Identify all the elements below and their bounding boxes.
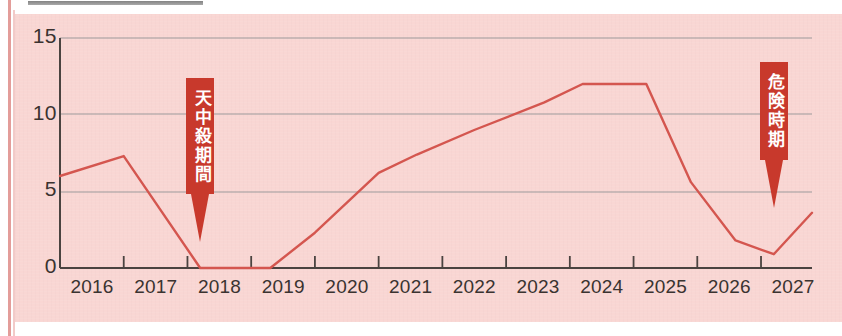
annotation-callout-pointer [191,194,209,242]
x-axis-tick-label: 2019 [251,276,315,298]
x-axis-tick-label: 2027 [761,276,825,298]
y-axis-tick-label: 10 [15,101,57,125]
scan-bottom-margin [0,322,842,336]
annotation-callout-pointer [765,160,783,208]
y-axis-tick-label: 0 [15,254,57,278]
annotation-callout-label: 天中殺期間 [186,78,214,194]
annotation-callout: 天中殺期間 [186,78,214,194]
x-axis-tick-label: 2024 [570,276,634,298]
page-margin-rule [8,0,11,336]
x-axis-tick-label: 2026 [697,276,761,298]
annotation-callout: 危険時期 [760,62,788,160]
y-axis-tick-label: 5 [15,177,57,201]
x-axis-tick-label: 2020 [315,276,379,298]
chart-panel: 151050 201620172018201920202021202220232… [15,14,842,322]
x-axis-tick-label: 2023 [506,276,570,298]
x-axis-tick-label: 2021 [379,276,443,298]
x-axis-ticks [60,256,761,268]
gridlines [60,38,812,192]
x-axis-tick-label: 2016 [60,276,124,298]
y-axis-tick-label: 15 [15,24,57,48]
chart-page: 151050 201620172018201920202021202220232… [0,0,842,336]
series-line-fortune [60,84,812,268]
x-axis-tick-label: 2018 [187,276,251,298]
scan-top-rule-artifact [28,1,203,5]
annotation-callout-label: 危険時期 [760,62,788,160]
x-axis-tick-label: 2022 [442,276,506,298]
x-axis-tick-label: 2025 [634,276,698,298]
x-axis-tick-label: 2017 [124,276,188,298]
